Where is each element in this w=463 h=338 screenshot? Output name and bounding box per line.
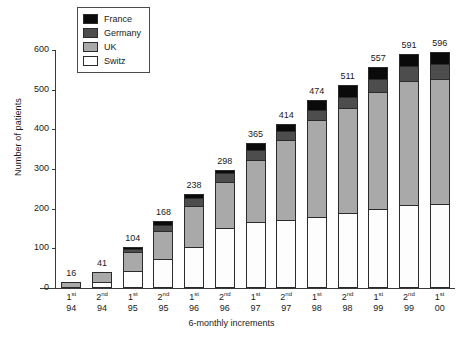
bar-segment-uk[interactable] — [339, 108, 357, 213]
bar-segment-uk[interactable] — [369, 92, 387, 209]
bar-value-label: 365 — [248, 129, 263, 139]
bar-segment-uk[interactable] — [216, 182, 234, 228]
bar-segment-germany[interactable] — [369, 79, 387, 92]
bar-segment-germany[interactable] — [247, 150, 265, 160]
bar-segment-germany[interactable] — [308, 110, 326, 120]
bar-group[interactable]: 474 — [307, 50, 327, 288]
bar-value-label: 16 — [66, 268, 76, 278]
bar-segment-switz[interactable] — [185, 247, 203, 287]
y-axis-title: Number of patients — [13, 67, 23, 207]
bar-segment-switz[interactable] — [154, 259, 172, 287]
stacked-bar[interactable] — [430, 52, 450, 288]
bar-segment-uk[interactable] — [124, 252, 142, 272]
plot-area: 1641104168238298365414474511557591596 — [56, 50, 455, 288]
bar-segment-switz[interactable] — [431, 204, 449, 287]
bar-value-label: 596 — [432, 38, 447, 48]
bar-group[interactable]: 511 — [338, 50, 358, 288]
bar-value-label: 511 — [340, 71, 354, 81]
stacked-bar[interactable] — [246, 143, 266, 288]
stacked-bar[interactable] — [276, 124, 296, 288]
chart-legend: FranceGermanyUKSwitz — [77, 7, 150, 73]
legend-item-switz[interactable]: Switz — [83, 54, 141, 68]
y-axis-tick-mark — [52, 288, 56, 289]
bar-segment-uk[interactable] — [154, 231, 172, 259]
bar-segment-switz[interactable] — [308, 217, 326, 287]
legend-item-uk[interactable]: UK — [83, 40, 141, 54]
bar-value-label: 591 — [401, 40, 416, 50]
bar-group[interactable]: 591 — [399, 50, 419, 288]
bar-group[interactable]: 414 — [276, 50, 296, 288]
legend-swatch-icon — [83, 42, 98, 52]
stacked-bar[interactable] — [61, 282, 81, 288]
bar-segment-france[interactable] — [308, 101, 326, 110]
bar-segment-france[interactable] — [431, 53, 449, 65]
bar-value-label: 474 — [309, 86, 324, 96]
bar-group[interactable]: 596 — [430, 50, 450, 288]
y-axis-tick-label: 500 — [34, 84, 49, 94]
bar-segment-uk[interactable] — [185, 206, 203, 247]
x-axis-tick-label: 1st00 — [422, 292, 458, 314]
bar-segment-france[interactable] — [369, 68, 387, 79]
bar-segment-uk[interactable] — [247, 160, 265, 223]
stacked-bar[interactable] — [123, 247, 143, 288]
bar-segment-germany[interactable] — [216, 173, 234, 182]
bar-segment-switz[interactable] — [124, 271, 142, 287]
y-axis-tick-label: 300 — [34, 163, 49, 173]
stacked-bar[interactable] — [399, 54, 419, 288]
bar-segment-uk[interactable] — [308, 120, 326, 217]
legend-swatch-icon — [83, 14, 98, 24]
legend-item-germany[interactable]: Germany — [83, 26, 141, 40]
bar-segment-switz[interactable] — [216, 228, 234, 287]
y-axis-tick-label: 0 — [44, 282, 49, 292]
y-axis-tick-label: 100 — [34, 242, 49, 252]
bar-segment-germany[interactable] — [431, 64, 449, 79]
bar-segment-france[interactable] — [339, 86, 357, 97]
bar-group[interactable]: 104 — [123, 50, 143, 288]
bar-group[interactable]: 41 — [92, 50, 112, 288]
legend-item-france[interactable]: France — [83, 12, 141, 26]
bar-segment-uk[interactable] — [400, 81, 418, 205]
stacked-bar[interactable] — [153, 221, 173, 288]
bar-segment-germany[interactable] — [400, 66, 418, 81]
bar-segment-switz[interactable] — [277, 220, 295, 287]
bar-group[interactable]: 365 — [246, 50, 266, 288]
bar-segment-uk[interactable] — [277, 140, 295, 219]
y-axis-tick-label: 600 — [34, 44, 49, 54]
bar-segment-uk[interactable] — [62, 283, 80, 287]
bar-segment-switz[interactable] — [369, 209, 387, 287]
bar-segment-france[interactable] — [277, 125, 295, 132]
y-axis-tick-label: 200 — [34, 203, 49, 213]
legend-label: UK — [104, 42, 117, 52]
bar-segment-uk[interactable] — [93, 273, 111, 282]
stacked-bar[interactable] — [92, 272, 112, 288]
bar-segment-germany[interactable] — [339, 97, 357, 108]
bar-group[interactable]: 298 — [215, 50, 235, 288]
stacked-bar[interactable] — [307, 100, 327, 288]
stacked-bar[interactable] — [368, 67, 388, 288]
bar-group[interactable]: 168 — [153, 50, 173, 288]
bar-value-label: 414 — [279, 110, 294, 120]
stacked-bar[interactable] — [215, 170, 235, 288]
bar-group[interactable]: 238 — [184, 50, 204, 288]
legend-swatch-icon — [83, 28, 98, 38]
bar-value-label: 41 — [97, 258, 107, 268]
bar-group[interactable]: 16 — [61, 50, 81, 288]
stacked-bar[interactable] — [338, 85, 358, 288]
bar-segment-uk[interactable] — [431, 79, 449, 204]
bar-segment-switz[interactable] — [93, 282, 111, 287]
bar-segment-germany[interactable] — [185, 198, 203, 206]
bar-segment-switz[interactable] — [339, 213, 357, 287]
bar-group[interactable]: 557 — [368, 50, 388, 288]
stacked-bar[interactable] — [184, 194, 204, 288]
legend-label: Switz — [104, 56, 126, 66]
legend-swatch-icon — [83, 56, 98, 66]
bar-segment-france[interactable] — [400, 55, 418, 67]
bar-segment-switz[interactable] — [247, 222, 265, 287]
bar-segment-switz[interactable] — [400, 205, 418, 287]
bar-segment-germany[interactable] — [277, 131, 295, 140]
stacked-bar-chart: Number of patients 0100200300400500600 1… — [0, 0, 463, 338]
bar-value-label: 238 — [187, 180, 202, 190]
x-axis-line — [40, 288, 455, 289]
bar-value-label: 104 — [125, 233, 140, 243]
bar-value-label: 557 — [371, 53, 386, 63]
